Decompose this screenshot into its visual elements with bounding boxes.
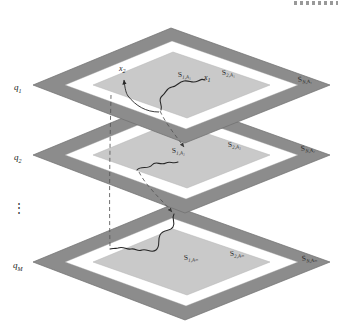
axis-label-plane-M: qM [13,260,24,272]
axis-label-plane-2: q2 [14,152,22,164]
planes-svg: q1 q2 ⋮ qM S1,A₁ S2,A₁ SN,A₁ x2 x1 S1,A₂ [0,0,342,333]
vertical-ellipsis: ⋮ [13,201,25,215]
plane-1 [33,28,330,143]
figure-canvas: q1 q2 ⋮ qM S1,A₁ S2,A₁ SN,A₁ x2 x1 S1,A₂ [0,0,342,333]
dotted-artifact [294,1,338,5]
axis-label-plane-1: q1 [14,82,22,94]
plane-M [33,205,330,320]
